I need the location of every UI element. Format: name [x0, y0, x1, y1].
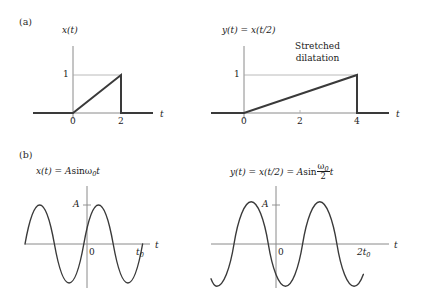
omega-subscript: 0: [324, 165, 328, 173]
y-tick-label-1: 1: [63, 69, 69, 79]
plot-title-equals-1: =: [249, 167, 257, 177]
plot-ramp-stretched: t y(t) = x(t/2) Stretched dilatation 1 0…: [211, 22, 422, 134]
stretched-annotation-line2: dilatation: [295, 52, 340, 64]
plot-title: x(t) = Asinω0t: [36, 166, 100, 176]
stretched-annotation-line1: Stretched: [295, 40, 340, 52]
plot-title-equals: =: [55, 166, 63, 176]
x-tick-label-2t0-base: 2t: [357, 247, 366, 257]
x-tick-label-t0: t0: [136, 247, 144, 257]
plot-title-x: x(t/2): [251, 25, 275, 35]
y-tick-label-A: A: [73, 199, 80, 209]
plot-title-y: y(t): [222, 25, 238, 35]
x-tick-label-0: 0: [70, 116, 76, 126]
x-tick-label-0: 0: [241, 116, 247, 126]
plot-ramp-original: t x(t) 1 0 2: [0, 22, 211, 134]
y-tick-label-1: 1: [234, 69, 240, 79]
signal-curve: [33, 75, 153, 113]
plot-title: x(t): [62, 25, 78, 35]
plot-sine-stretched: t y(t) = x(t/2) = Asinω02t A 0 2t0: [211, 158, 422, 302]
x-tick-label-2t0-sub: 0: [366, 251, 370, 259]
plot-title-sin: sin: [303, 167, 316, 177]
plot-title-var: t: [330, 167, 334, 177]
fraction-numerator: ω0: [317, 162, 330, 171]
plot-title-sin: sin: [72, 166, 85, 176]
signal-curve: [211, 75, 389, 113]
x-axis-label: t: [396, 109, 400, 119]
x-tick-label-t0-sub: 0: [140, 251, 144, 259]
x-tick-label-0: 0: [89, 247, 95, 257]
x-axis-label: t: [394, 240, 398, 250]
plot-title-equals: =: [241, 25, 249, 35]
x-tick-label-4: 4: [354, 116, 360, 126]
plot-title-var: t: [96, 166, 100, 176]
plot-title: y(t) = x(t/2): [222, 25, 276, 35]
plot-title-lhs: y(t): [230, 167, 246, 177]
x-tick-label-2: 2: [297, 116, 303, 126]
stretched-annotation: Stretched dilatation: [295, 40, 340, 64]
plot-sine-original: t x(t) = Asinω0t A 0 t0: [0, 158, 211, 302]
plot-title: y(t) = x(t/2) = Asinω02t: [230, 162, 333, 180]
x-tick-label-2: 2: [118, 116, 124, 126]
omega-subscript: 0: [92, 170, 96, 178]
plot-title-lhs: x(t): [36, 166, 52, 176]
x-axis-label: t: [160, 109, 164, 119]
x-tick-label-0: 0: [278, 247, 284, 257]
plot-title-mid: x(t/2): [259, 167, 283, 177]
omega-over-two-fraction: ω02: [317, 162, 330, 180]
y-tick-label-A: A: [262, 199, 269, 209]
plot-title-equals-2: =: [286, 167, 294, 177]
x-axis-label: t: [155, 240, 159, 250]
x-tick-label-2t0: 2t0: [357, 247, 371, 257]
signal-scaling-figure: (a) (b) t x(t) 1 0 2 t y(t): [0, 0, 422, 302]
